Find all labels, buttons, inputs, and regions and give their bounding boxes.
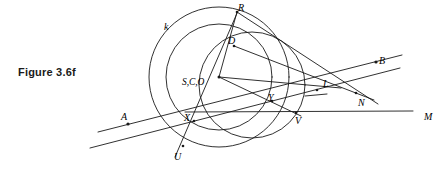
label-D: D [228, 36, 235, 46]
segment-R-N [237, 12, 378, 104]
label-B: B [379, 56, 385, 66]
point-A [126, 122, 129, 125]
label-A: A [121, 112, 127, 122]
label-X: X [184, 113, 190, 123]
segment-X-M [185, 111, 413, 112]
label-Y: Y [268, 93, 274, 103]
point-B [374, 60, 377, 63]
line-U-N [90, 68, 400, 148]
geometry-drawing [0, 0, 444, 176]
label-S-C-O: S,C,O [182, 78, 204, 88]
circle-third [199, 32, 305, 138]
figure-container: Figure 3.6f k R D S,C,O Y X V U A L N B … [0, 0, 444, 176]
point-O [218, 76, 221, 79]
label-N: N [358, 98, 365, 108]
label-M: M [424, 112, 432, 122]
point-U [182, 145, 185, 148]
figure-caption: Figure 3.6f [18, 66, 76, 78]
label-U: U [174, 152, 181, 162]
label-V: V [295, 116, 301, 126]
point-X [193, 120, 196, 123]
label-L: L [323, 79, 329, 89]
label-k: k [164, 22, 168, 32]
label-R: R [238, 3, 244, 13]
tick-near-L [305, 94, 327, 96]
point-V [295, 112, 298, 115]
point-N [355, 92, 358, 95]
point-L [316, 89, 319, 92]
